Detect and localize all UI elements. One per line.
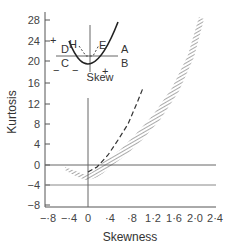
svg-text:2·4: 2·4 (207, 212, 223, 224)
svg-text:16: 16 (28, 77, 40, 89)
svg-text:−·8: −·8 (40, 212, 56, 224)
svg-text:−: − (53, 64, 59, 76)
svg-text:0: 0 (34, 159, 40, 171)
svg-text:·4: ·4 (105, 212, 115, 224)
svg-text:·8: ·8 (127, 212, 137, 224)
svg-text:−·4: −·4 (61, 212, 77, 224)
svg-text:1·6: 1·6 (166, 212, 182, 224)
svg-text:+: + (102, 65, 108, 77)
svg-text:D: D (61, 43, 69, 55)
y-tick-marks (45, 20, 50, 205)
svg-text:A: A (121, 43, 129, 55)
svg-text:12: 12 (28, 98, 40, 110)
chart: 28 24 20 16 12 8 4 0 −4 −8 −·8 −·4 0 ·4 … (0, 0, 234, 250)
svg-text:20: 20 (28, 55, 40, 67)
svg-text:H: H (69, 38, 77, 50)
x-axis-label: Skewness (103, 230, 158, 244)
skew-inset: Skew A B C D E H + − − + (50, 22, 129, 83)
hatched-band (65, 17, 204, 180)
svg-text:+: + (50, 34, 56, 46)
svg-text:B: B (121, 57, 128, 69)
svg-text:−4: −4 (27, 179, 40, 191)
svg-text:0: 0 (85, 212, 91, 224)
svg-text:−8: −8 (27, 199, 40, 211)
x-tick-labels: −·8 −·4 0 ·4 ·8 1·2 1·6 2·0 2·4 (40, 212, 223, 224)
svg-text:28: 28 (28, 14, 40, 26)
svg-text:E: E (99, 39, 106, 51)
svg-text:C: C (61, 57, 69, 69)
svg-text:4: 4 (34, 138, 40, 150)
svg-text:24: 24 (28, 35, 40, 47)
svg-text:1·2: 1·2 (145, 212, 161, 224)
y-axis-label: Kurtosis (5, 90, 19, 133)
svg-text:2·0: 2·0 (187, 212, 203, 224)
y-tick-labels: 28 24 20 16 12 8 4 0 −4 −8 (27, 14, 40, 211)
svg-text:Skew: Skew (87, 71, 114, 83)
svg-text:−: − (72, 64, 78, 76)
svg-text:8: 8 (34, 118, 40, 130)
